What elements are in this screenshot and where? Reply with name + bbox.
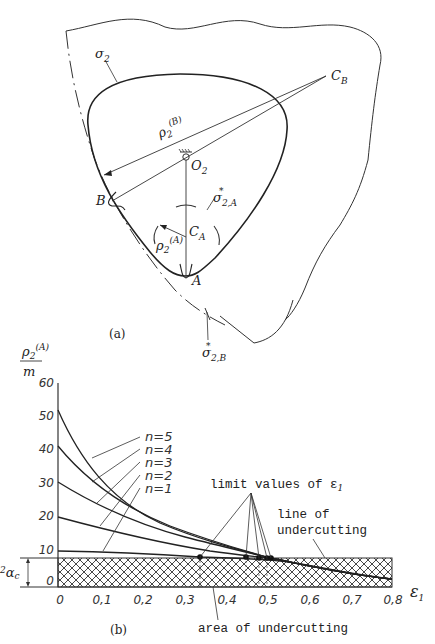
figure-b-chart: ρ2(A) m 2αc 60 50 40 30 20 10 0 0 0,1 0,… bbox=[0, 342, 424, 637]
rhoA-label: ρ2(A) bbox=[155, 235, 183, 255]
svg-text:0,2: 0,2 bbox=[133, 593, 152, 607]
y-axis-label-denominator: m bbox=[23, 364, 35, 379]
b-label: B bbox=[95, 193, 106, 208]
sigma2a-star-label: σ2,A* bbox=[213, 186, 237, 208]
sigma2-cam-profile bbox=[88, 74, 287, 276]
svg-text:0: 0 bbox=[46, 574, 54, 588]
svg-text:0: 0 bbox=[56, 593, 64, 607]
figure-a: σ2 CB ρ2(B) O2 B σ2,A* CA ρ2(A) A bbox=[66, 19, 381, 363]
o2-label: O2 bbox=[191, 158, 208, 176]
a-label: A bbox=[191, 273, 201, 288]
figure-canvas: σ2 CB ρ2(B) O2 B σ2,A* CA ρ2(A) A bbox=[0, 0, 435, 644]
area-of-undercutting-label: area of undercutting bbox=[198, 622, 348, 636]
rhoB-radius-line bbox=[104, 76, 326, 175]
ca-label: CA bbox=[189, 224, 206, 242]
svg-text:0,4: 0,4 bbox=[217, 593, 236, 607]
line-of-undercutting-label-2: undercutting bbox=[277, 524, 367, 538]
legend-n1: n=1 bbox=[145, 481, 172, 496]
limit-values-annotation: limit values of ε1 bbox=[210, 478, 343, 493]
svg-text:0,6: 0,6 bbox=[300, 593, 319, 607]
line-of-undercutting-label-1: line of bbox=[277, 508, 330, 522]
y-ticks: 60 50 40 30 20 10 0 bbox=[39, 376, 55, 588]
curve-n5 bbox=[58, 410, 392, 579]
caption-a: (a) bbox=[109, 327, 126, 341]
svg-text:30: 30 bbox=[39, 476, 55, 490]
svg-text:40: 40 bbox=[39, 442, 55, 456]
svg-text:50: 50 bbox=[39, 409, 55, 423]
alpha-c-label: 2αc bbox=[0, 565, 20, 581]
svg-text:0,1: 0,1 bbox=[92, 593, 111, 607]
sigma2-label: σ2 bbox=[95, 46, 110, 64]
svg-text:0,3: 0,3 bbox=[175, 593, 194, 607]
sigma2b-star-label: σ2,B* bbox=[202, 341, 226, 363]
outer-body-boundary bbox=[66, 19, 381, 320]
y-axis-label-numerator: ρ2(A) bbox=[21, 342, 49, 361]
cb-to-b-line bbox=[112, 76, 326, 201]
x-axis-label: ε1 bbox=[410, 582, 424, 603]
cb-label: CB bbox=[331, 68, 348, 86]
svg-text:0,7: 0,7 bbox=[342, 593, 361, 607]
svg-text:60: 60 bbox=[39, 376, 55, 390]
svg-text:0,8: 0,8 bbox=[383, 593, 402, 607]
x-ticks: 0 0,1 0,2 0,3 0,4 0,5 0,6 0,7 0,8 bbox=[56, 593, 403, 607]
svg-text:0,5: 0,5 bbox=[258, 593, 277, 607]
caption-b: (b) bbox=[110, 623, 127, 637]
svg-text:10: 10 bbox=[39, 543, 55, 557]
svg-text:20: 20 bbox=[39, 509, 55, 523]
rhoB-label: ρ2(B) bbox=[153, 114, 187, 143]
curves bbox=[58, 410, 392, 579]
